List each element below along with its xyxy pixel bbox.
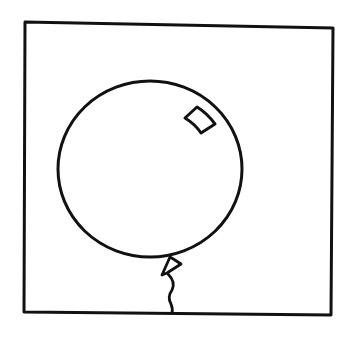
highlight-shape [185, 107, 215, 133]
knot-shape [162, 257, 181, 275]
string-line [168, 274, 173, 313]
frame [24, 22, 333, 315]
balloon-icon [58, 81, 242, 257]
balloon-drawing [0, 0, 354, 340]
